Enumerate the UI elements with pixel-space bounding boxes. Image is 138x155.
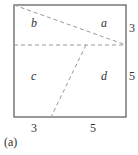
side-label-bottom-right: 5 <box>90 122 96 134</box>
side-label-right-top: 3 <box>129 22 135 34</box>
region-label-b: b <box>31 17 37 29</box>
side-label-right-bottom: 5 <box>129 70 135 82</box>
region-label-d: d <box>101 70 107 82</box>
figure-caption: (a) <box>4 136 17 148</box>
side-label-bottom-left: 3 <box>31 122 37 134</box>
region-label-c: c <box>31 70 36 82</box>
region-label-a: a <box>101 17 107 29</box>
slanted-dashed-line <box>51 45 86 117</box>
square-diagram <box>0 0 138 155</box>
